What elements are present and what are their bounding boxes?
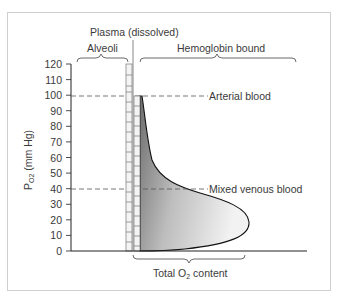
arterial-blood-label: Arterial blood <box>209 91 271 102</box>
hemoglobin-column <box>134 96 140 251</box>
y-tick-80: 80 <box>36 121 62 132</box>
y-tick-60: 60 <box>36 153 62 164</box>
plasma-label: Plasma (dissolved) <box>90 27 179 38</box>
y-tick-40: 40 <box>36 184 62 195</box>
y-axis-label: PO2 (mm Hg) <box>22 130 35 190</box>
alveoli-label: Alveoli <box>87 43 118 54</box>
y-tick-50: 50 <box>36 168 62 179</box>
venous-blood-label: Mixed venous blood <box>209 184 302 195</box>
y-tick-70: 70 <box>36 137 62 148</box>
y-axis-ticks <box>66 64 71 251</box>
y-tick-120: 120 <box>36 59 62 70</box>
alveoli-brace <box>77 54 128 62</box>
x-axis-label: Total O2 content <box>153 268 228 280</box>
y-tick-90: 90 <box>36 106 62 117</box>
total-content-brace <box>133 255 245 263</box>
hemoglobin-curve <box>140 96 249 251</box>
alveoli-column <box>126 64 132 251</box>
y-tick-20: 20 <box>36 215 62 226</box>
y-tick-10: 10 <box>36 230 62 241</box>
y-tick-100: 100 <box>36 90 62 101</box>
y-tick-30: 30 <box>36 199 62 210</box>
y-tick-0: 0 <box>36 246 62 257</box>
hemoglobin-brace <box>140 54 296 62</box>
hemoglobin-label: Hemoglobin bound <box>177 43 265 54</box>
y-tick-110: 110 <box>36 75 62 86</box>
